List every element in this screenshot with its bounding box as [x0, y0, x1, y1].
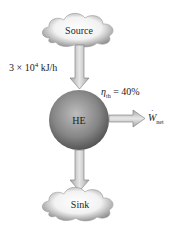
source-label: Source: [65, 25, 93, 36]
heat-input-unit: kJ/h: [38, 62, 57, 73]
heat-rejection-arrow: [70, 150, 89, 191]
sink-label: Sink: [71, 199, 89, 210]
source-cloud: Source: [42, 13, 113, 47]
sink-cloud: Sink: [42, 187, 113, 221]
efficiency-label: ηth = 40%: [101, 86, 140, 99]
heat-engine-sphere: HE: [49, 90, 109, 150]
dot-accent: ·: [151, 106, 154, 115]
heat-input-label: 3 × 104 kJ/h: [9, 61, 57, 73]
engine-label: HE: [72, 115, 85, 126]
work-output-arrow: [109, 110, 145, 127]
heat-input-mantissa: 3 × 10: [9, 62, 35, 73]
efficiency-value: = 40%: [111, 86, 140, 97]
work-subscript: net: [156, 119, 163, 125]
heat-input-arrow: [70, 45, 89, 89]
heat-engine-diagram: Source HE Sink: [0, 0, 172, 235]
work-output-label: · W net: [148, 112, 164, 125]
